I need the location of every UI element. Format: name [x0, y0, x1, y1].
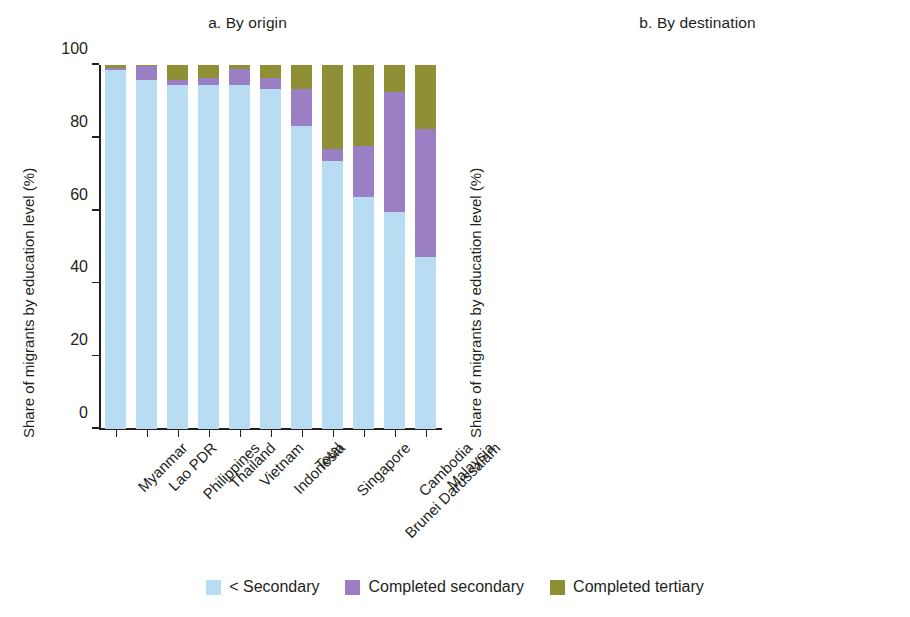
panel-a-x-tick	[302, 429, 304, 437]
stacked-bar[interactable]	[260, 65, 280, 429]
stacked-bar[interactable]	[198, 65, 218, 429]
panel-a-y-tick-0	[92, 427, 99, 429]
legend-label: < Secondary	[229, 578, 319, 596]
bar-segment[interactable]	[353, 146, 373, 197]
bar-group[interactable]	[162, 65, 193, 429]
bar-segment[interactable]	[415, 65, 435, 129]
panel-a-y-tick-label-40: 40	[70, 259, 88, 275]
bar-segment[interactable]	[291, 126, 311, 429]
bar-segment[interactable]	[229, 69, 249, 85]
panel-a-y-tick-40	[92, 282, 99, 284]
bar-segment[interactable]	[384, 212, 404, 429]
panel-a-x-tick	[147, 429, 149, 437]
stacked-bar[interactable]	[322, 65, 342, 429]
panel-a-bars	[100, 65, 441, 429]
bar-segment[interactable]	[384, 92, 404, 212]
stacked-bar[interactable]	[415, 65, 435, 429]
panel-a-y-tick-label-60: 60	[70, 186, 88, 202]
panel-a-y-tick-20	[92, 355, 99, 357]
panel-a-y-tick-100	[92, 63, 99, 65]
bar-segment[interactable]	[260, 65, 280, 78]
figure-container: a. By origin Share of migrants by educat…	[0, 0, 910, 617]
bar-group[interactable]	[348, 65, 379, 429]
bar-segment[interactable]	[322, 149, 342, 161]
legend-item[interactable]: Completed secondary	[345, 578, 524, 596]
bar-group[interactable]	[131, 65, 162, 429]
panel-a-x-tick	[333, 429, 335, 437]
legend-label: Completed tertiary	[573, 578, 704, 596]
panel-a-y-tick-label-80: 80	[70, 114, 88, 130]
panel-a-x-tick	[240, 429, 242, 437]
panel-a-x-tick	[271, 429, 273, 437]
panel-a-y-axis-title: Share of migrants by education level (%)	[20, 168, 37, 438]
panel-a-y-tick-label-20: 20	[70, 332, 88, 348]
panel-a-y-tick-label-100: 100	[61, 41, 88, 57]
bar-group[interactable]	[286, 65, 317, 429]
panel-a-y-tick-80	[92, 136, 99, 138]
stacked-bar[interactable]	[229, 65, 249, 429]
bar-group[interactable]	[224, 65, 255, 429]
bar-segment[interactable]	[105, 70, 125, 429]
bar-group[interactable]	[193, 65, 224, 429]
bar-segment[interactable]	[353, 65, 373, 146]
panel-a-x-labels: MyanmarLao PDRPhilippinesThailandVietnam…	[100, 429, 441, 559]
bar-segment[interactable]	[136, 66, 156, 80]
bar-segment[interactable]	[415, 129, 435, 256]
chart-panel-by-origin: a. By origin Share of migrants by educat…	[0, 0, 455, 560]
legend-swatch-icon	[206, 580, 221, 595]
stacked-bar[interactable]	[353, 65, 373, 429]
bar-group[interactable]	[379, 65, 410, 429]
stacked-bar[interactable]	[167, 65, 187, 429]
bar-segment[interactable]	[167, 65, 187, 80]
bar-segment[interactable]	[291, 65, 311, 89]
panel-a-x-tick	[116, 429, 118, 437]
x-axis-label: Singapore	[353, 439, 413, 499]
bar-segment[interactable]	[198, 78, 218, 85]
panel-a-title: a. By origin	[0, 14, 455, 32]
panel-a-x-tick	[364, 429, 366, 437]
chart-legend: < SecondaryCompleted secondaryCompleted …	[0, 578, 910, 596]
legend-label: Completed secondary	[368, 578, 524, 596]
bar-segment[interactable]	[353, 197, 373, 429]
panel-b-y-axis-title: Share of migrants by education level (%)	[467, 168, 484, 438]
legend-swatch-icon	[550, 580, 565, 595]
stacked-bar[interactable]	[291, 65, 311, 429]
chart-panel-by-destination: b. By destination Share of migrants by e…	[455, 0, 910, 560]
bar-segment[interactable]	[322, 65, 342, 149]
bar-group[interactable]	[317, 65, 348, 429]
bar-group[interactable]	[410, 65, 441, 429]
bar-segment[interactable]	[415, 257, 435, 429]
legend-swatch-icon	[345, 580, 360, 595]
panel-a-y-tick-label-0: 0	[79, 405, 88, 421]
panel-a-x-tick	[209, 429, 211, 437]
stacked-bar[interactable]	[384, 65, 404, 429]
bar-segment[interactable]	[322, 161, 342, 429]
bar-segment[interactable]	[384, 65, 404, 92]
stacked-bar[interactable]	[105, 65, 125, 429]
bar-segment[interactable]	[136, 80, 156, 429]
panel-b-title: b. By destination	[455, 14, 910, 32]
bar-segment[interactable]	[198, 85, 218, 429]
bar-group[interactable]	[255, 65, 286, 429]
bar-segment[interactable]	[198, 65, 218, 78]
bar-segment[interactable]	[167, 85, 187, 429]
legend-item[interactable]: < Secondary	[206, 578, 319, 596]
bar-segment[interactable]	[291, 89, 311, 126]
legend-item[interactable]: Completed tertiary	[550, 578, 704, 596]
panel-a-x-tick	[426, 429, 428, 437]
panel-a-y-tick-60	[92, 209, 99, 211]
bar-group[interactable]	[100, 65, 131, 429]
stacked-bar[interactable]	[136, 65, 156, 429]
panel-a-x-tick	[395, 429, 397, 437]
panel-a-x-tick	[178, 429, 180, 437]
bar-segment[interactable]	[229, 85, 249, 429]
bar-segment[interactable]	[260, 78, 280, 89]
panel-a-plot-area: 020406080100 MyanmarLao PDRPhilippinesTh…	[100, 65, 441, 429]
bar-segment[interactable]	[260, 89, 280, 429]
